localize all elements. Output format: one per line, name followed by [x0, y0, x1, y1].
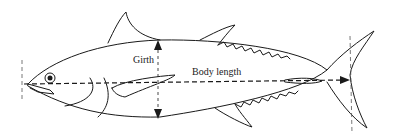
body-length-label: Body length [192, 66, 241, 77]
girth-arrowhead-top [154, 40, 162, 50]
pectoral-fin [112, 75, 175, 97]
eye-pupil [48, 76, 53, 81]
girth-label: Girth [133, 54, 154, 65]
body-length-arrowhead [340, 76, 350, 84]
dorsal-fin [108, 12, 160, 43]
fish-body-outline [28, 40, 327, 117]
anal-fin [215, 104, 252, 127]
anal-finlets [235, 91, 298, 107]
gill-line-outer [98, 78, 108, 117]
mouth [28, 84, 54, 94]
gill-line [65, 78, 93, 106]
